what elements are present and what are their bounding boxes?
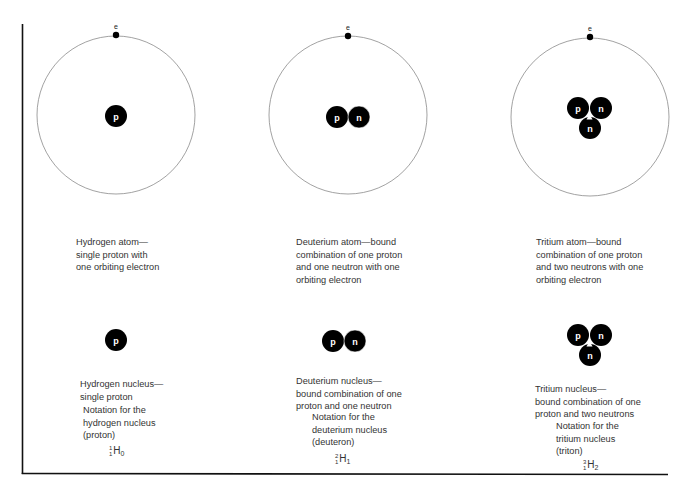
triangle-marker-icon [587, 341, 593, 347]
proton-icon: p [326, 106, 348, 128]
hydrogen-notation-label: Notation for the hydrogen nucleus (proto… [83, 404, 156, 442]
hydrogen-nucleus-caption: Hydrogen nucleus— single proton [80, 378, 163, 403]
hydrogen-atom: e p [37, 23, 195, 194]
deuterium-atom: e p n [269, 24, 427, 194]
tritium-nucleus-caption: Tritium nucleus— bound combination of on… [535, 383, 641, 421]
tritium-symbol: 31H2 [583, 459, 598, 473]
proton-icon: p [105, 329, 127, 351]
hydrogen-nucleus: p [105, 329, 127, 351]
electron-icon [345, 33, 351, 39]
hydrogen-atom-caption: Hydrogen atom— single proton with one or… [76, 236, 159, 274]
deuterium-atom-caption: Deuterium atom—bound combination of one … [296, 236, 402, 286]
proton-icon: p [105, 105, 127, 127]
frame-bottom-border [22, 474, 668, 475]
deuterium-notation-label: Notation for the deuterium nucleus (deut… [312, 411, 387, 449]
svg-text:n: n [598, 331, 604, 341]
proton-icon: p [567, 97, 589, 119]
tritium-notation-label: Notation for the tritium nucleus (triton… [556, 420, 619, 458]
electron-label: e [588, 25, 592, 32]
svg-text:n: n [352, 337, 358, 347]
svg-text:p: p [113, 336, 119, 346]
neutron-icon: n [579, 344, 601, 366]
neutron-icon: n [590, 324, 612, 346]
proton-icon: p [567, 324, 589, 346]
electron-icon [113, 32, 119, 38]
tritium-nucleus: p n n [567, 324, 612, 366]
svg-text:n: n [587, 351, 593, 361]
svg-text:n: n [587, 124, 593, 134]
svg-text:p: p [575, 331, 581, 341]
svg-text:p: p [330, 337, 336, 347]
hydrogen-symbol: 11H0 [109, 445, 124, 459]
svg-text:n: n [356, 113, 362, 123]
electron-label: e [346, 24, 350, 31]
deuterium-symbol: 21H1 [335, 453, 350, 467]
triangle-marker-icon [587, 114, 593, 120]
neutron-icon: n [579, 117, 601, 139]
proton-icon: p [322, 330, 344, 352]
neutron-icon: n [348, 106, 370, 128]
deuterium-nucleus-caption: Deuterium nucleus— bound combination of … [296, 375, 402, 413]
neutron-icon: n [344, 330, 366, 352]
electron-icon [587, 34, 593, 40]
tritium-atom: e p n n [511, 25, 669, 196]
neutron-icon: n [590, 97, 612, 119]
svg-text:p: p [334, 113, 340, 123]
electron-label: e [114, 23, 118, 30]
svg-text:n: n [598, 104, 604, 114]
svg-text:p: p [575, 104, 581, 114]
svg-text:p: p [113, 112, 119, 122]
deuterium-nucleus: p n [322, 330, 366, 352]
tritium-atom-caption: Tritium atom—bound combination of one pr… [536, 236, 643, 286]
